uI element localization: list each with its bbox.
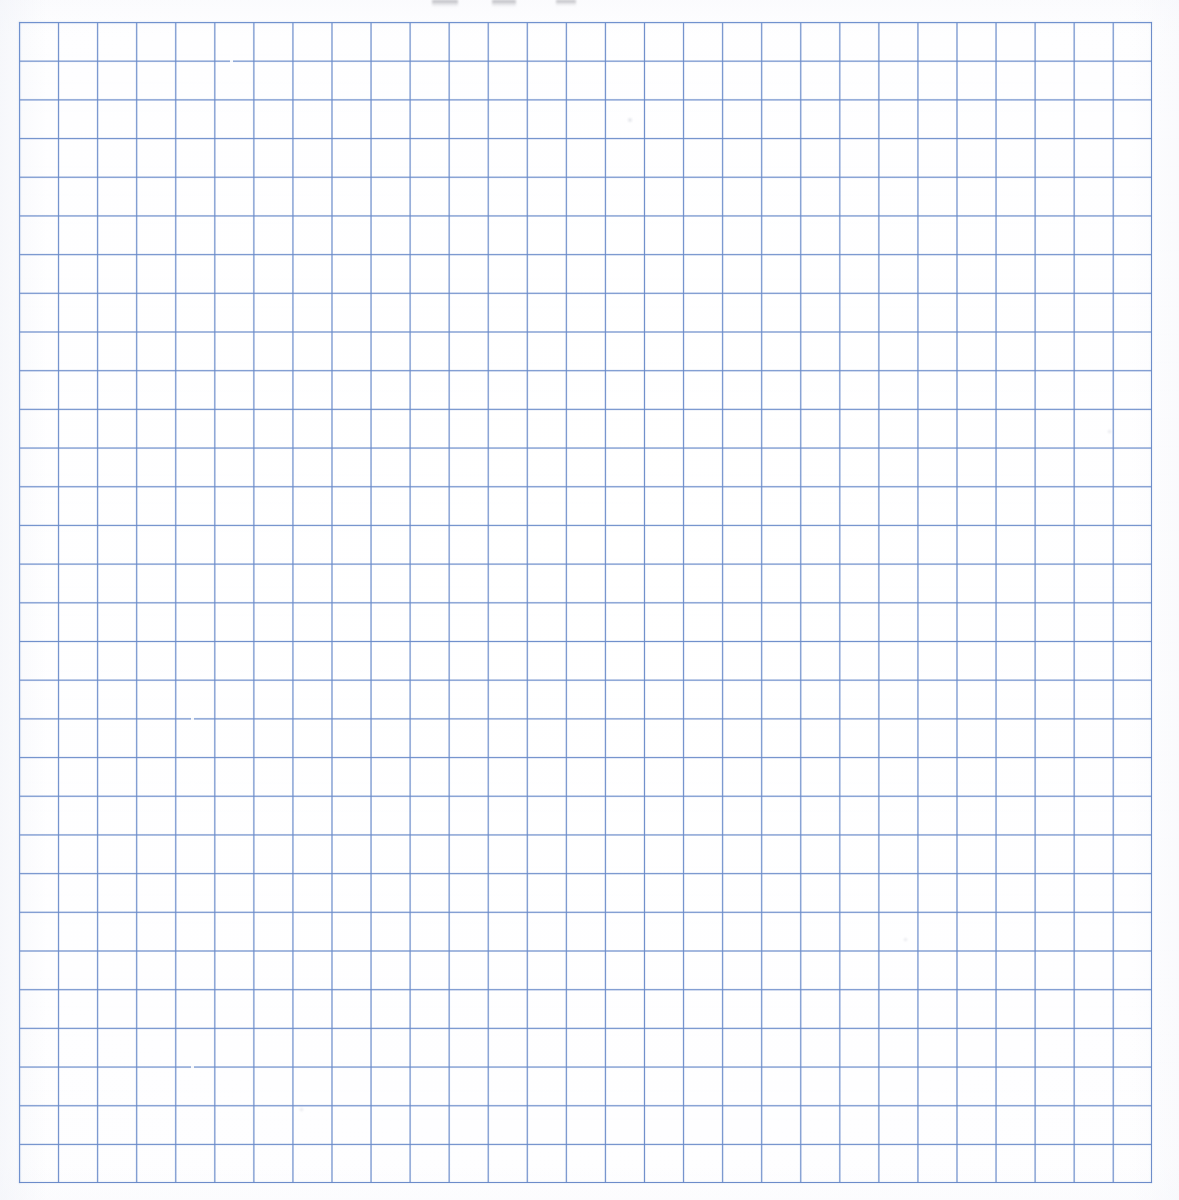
grid-lines	[19, 22, 1152, 1183]
graph-paper-page	[0, 0, 1179, 1200]
grid-border-top	[19, 22, 1152, 23]
grid-border-right	[1151, 22, 1152, 1183]
grid-border-bottom	[19, 1182, 1152, 1183]
grid-border-left	[19, 22, 20, 1183]
graph-grid	[19, 22, 1152, 1183]
